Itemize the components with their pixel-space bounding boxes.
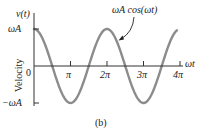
x-axis-label: ωt (185, 58, 195, 69)
y-axis-label: Velocity (13, 59, 24, 92)
velocity-chart: v(t) ωA 0 −ωA Velocity π 2π 3π 4π ωt ωA … (0, 0, 206, 134)
x-tick-label-4pi: 4π (173, 69, 184, 80)
y-function-label: v(t) (16, 8, 31, 20)
y-tick-label-bottom: −ωA (2, 97, 23, 108)
annotation-arrow (121, 17, 134, 39)
x-tick-label-2pi: 2π (100, 69, 111, 80)
x-tick-label-pi: π (66, 69, 72, 80)
x-tick-label-3pi: 3π (136, 69, 148, 80)
y-tick-label-zero: 0 (26, 67, 31, 78)
curve-annotation: ωA cos(ωt) (112, 4, 158, 16)
y-tick-label-top: ωA (8, 23, 22, 34)
arrow-head-icon (119, 36, 125, 41)
figure-caption: (b) (95, 117, 107, 129)
